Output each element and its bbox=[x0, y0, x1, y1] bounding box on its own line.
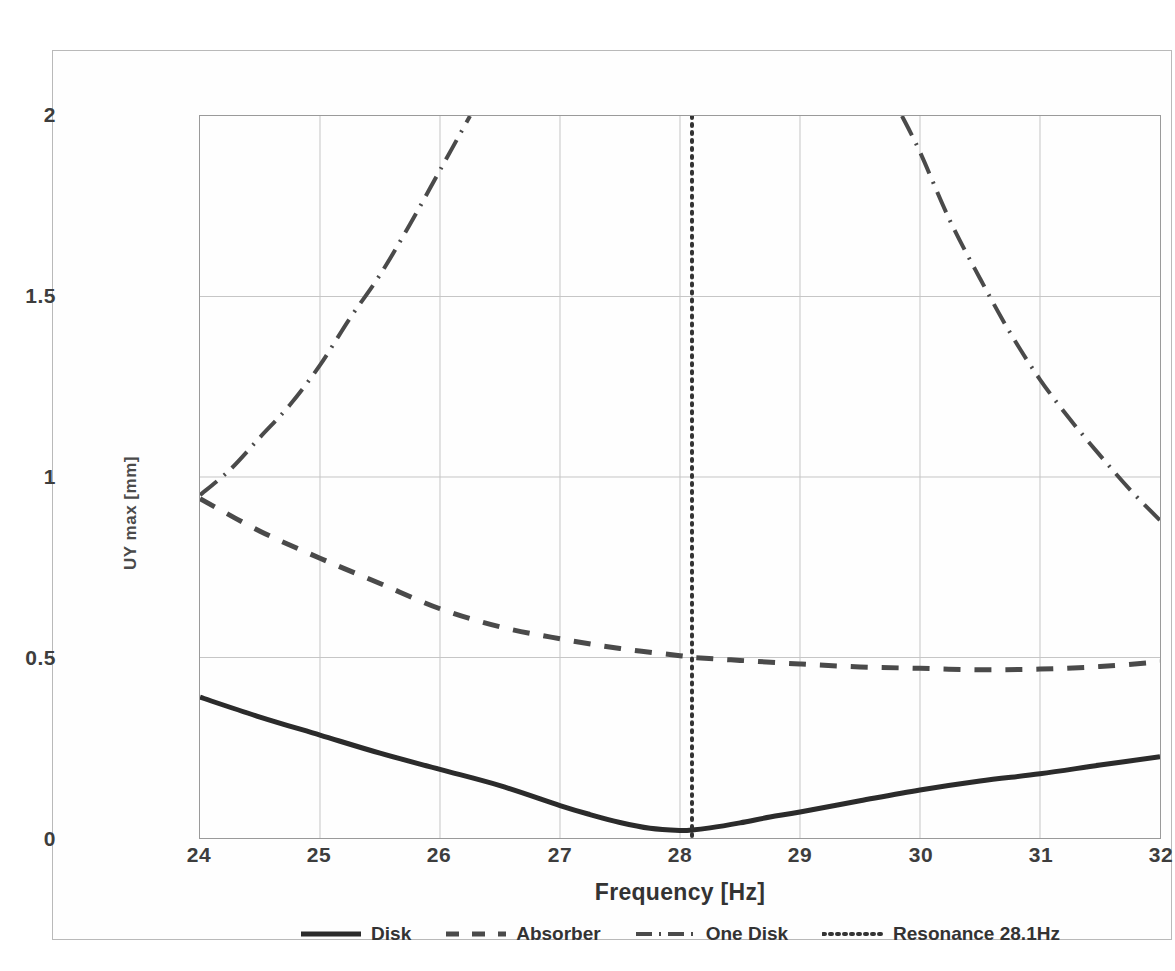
legend-label: Resonance 28.1Hz bbox=[893, 923, 1060, 945]
legend-label: Disk bbox=[371, 923, 411, 945]
y-tick-label: 1 bbox=[0, 465, 56, 489]
x-tick-label: 32 bbox=[1131, 843, 1175, 867]
x-axis-label: Frequency [Hz] bbox=[199, 879, 1161, 906]
x-tick-label: 24 bbox=[169, 843, 229, 867]
y-tick-label: 0 bbox=[0, 827, 56, 851]
figure-frame: UY max [mm] 2 1.5 1 0.5 0 24 25 26 27 28… bbox=[52, 50, 1172, 940]
y-axis-label: UY max [mm] bbox=[121, 393, 141, 633]
legend-item-absorber[interactable]: Absorber bbox=[445, 923, 600, 945]
y-tick-label: 0.5 bbox=[0, 646, 56, 670]
x-tick-label: 31 bbox=[1011, 843, 1071, 867]
legend-item-disk[interactable]: Disk bbox=[300, 923, 411, 945]
x-tick-label: 29 bbox=[770, 843, 830, 867]
legend-swatch-dotted-icon bbox=[822, 927, 884, 941]
x-tick-label: 27 bbox=[530, 843, 590, 867]
y-tick-label: 2 bbox=[0, 103, 56, 127]
legend-swatch-solid-icon bbox=[300, 927, 362, 941]
chart-legend: Disk Absorber One Disk Resonance 28.1Hz bbox=[199, 923, 1161, 945]
legend-item-resonance[interactable]: Resonance 28.1Hz bbox=[822, 923, 1060, 945]
legend-label: Absorber bbox=[516, 923, 600, 945]
x-tick-label: 30 bbox=[891, 843, 951, 867]
series-layer bbox=[200, 116, 1160, 838]
legend-swatch-dashed-icon bbox=[445, 927, 507, 941]
legend-swatch-dashdot-icon bbox=[635, 927, 697, 941]
plot-area bbox=[199, 115, 1161, 839]
legend-label: One Disk bbox=[706, 923, 788, 945]
x-tick-label: 28 bbox=[650, 843, 710, 867]
x-tick-label: 26 bbox=[409, 843, 469, 867]
y-tick-label: 1.5 bbox=[0, 284, 56, 308]
x-tick-label: 25 bbox=[289, 843, 349, 867]
legend-item-one-disk[interactable]: One Disk bbox=[635, 923, 788, 945]
